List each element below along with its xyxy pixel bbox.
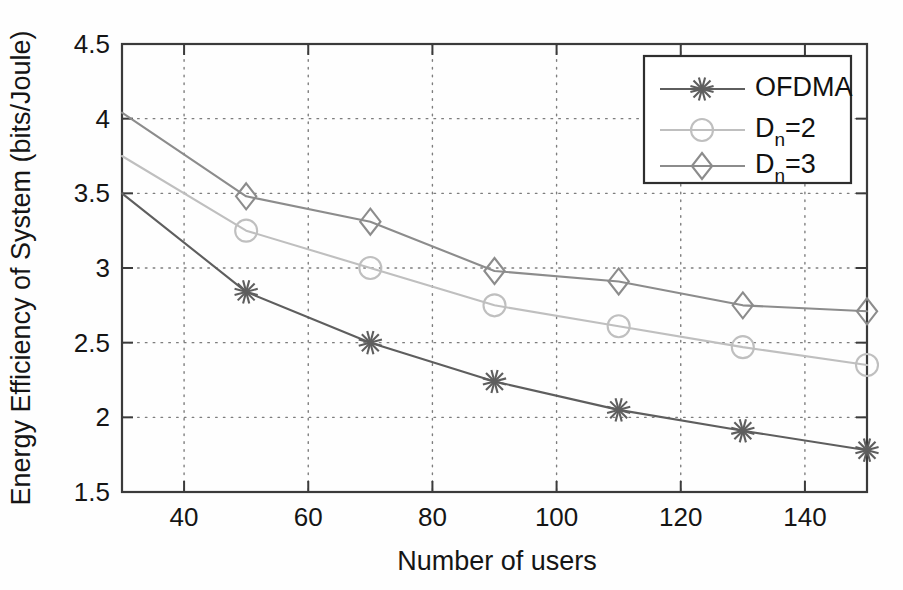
legend-label-suffix: =3 — [785, 149, 816, 179]
energy-efficiency-line-chart: 1.522.533.544.5 406080100120140 Number o… — [0, 0, 903, 590]
x-tick-label: 100 — [535, 502, 578, 532]
x-tick-label: 80 — [418, 502, 447, 532]
legend-label-subscript: n — [775, 165, 786, 186]
x-axis-title: Number of users — [397, 546, 597, 576]
figure-container: 1.522.533.544.5 406080100120140 Number o… — [0, 0, 903, 590]
y-tick-label: 4.5 — [74, 29, 110, 59]
legend-label-base: D — [755, 149, 775, 179]
y-tick-label: 3.5 — [74, 178, 110, 208]
y-tick-label: 4 — [96, 104, 110, 134]
x-tick-label: 120 — [659, 502, 702, 532]
x-tick-label: 40 — [170, 502, 199, 532]
y-axis-title: Energy Efficiency of System (bits/Joule) — [6, 30, 36, 505]
x-tick-label: 60 — [294, 502, 323, 532]
legend-label-base: D — [755, 113, 775, 143]
y-tick-label: 3 — [96, 253, 110, 283]
legend-label-suffix: =2 — [785, 113, 816, 143]
x-tick-label: 140 — [783, 502, 826, 532]
y-tick-label: 2 — [96, 402, 110, 432]
legend[interactable]: OFDMADn=2Dn=3 — [644, 56, 853, 186]
legend-label: OFDMA — [755, 72, 853, 102]
y-tick-label: 2.5 — [74, 328, 110, 358]
y-tick-label: 1.5 — [74, 477, 110, 507]
legend-label-subscript: n — [775, 129, 786, 150]
legend-label-base: OFDMA — [755, 72, 853, 102]
